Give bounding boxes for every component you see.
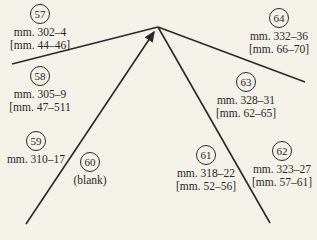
node-62: 62 mm. 323–27 [mm. 57–61] — [250, 141, 314, 189]
node-63: 63 mm. 328–31 [mm. 62–65] — [214, 72, 278, 120]
node-61: 61 mm. 318–22 [mm. 52–56] — [174, 145, 238, 193]
node-number-circle: 57 — [30, 4, 50, 24]
node-57: 57 mm. 302–4 [mm. 44–46] — [8, 4, 72, 52]
node-60: 60 (blank) — [70, 152, 110, 187]
node-59: 59 mm. 310–17 — [6, 131, 66, 166]
node-number-circle: 58 — [30, 66, 50, 86]
node-number-circle: 63 — [236, 72, 256, 92]
node-number-circle: 59 — [26, 131, 46, 151]
node-number-circle: 62 — [272, 141, 292, 161]
node-number-circle: 64 — [269, 8, 289, 28]
node-58: 58 mm. 305–9 [mm. 47–511 — [8, 66, 72, 114]
arrow-line — [26, 32, 154, 224]
node-number-circle: 60 — [80, 152, 100, 172]
node-64: 64 mm. 332–36 [mm. 66–70] — [244, 8, 314, 56]
line-descending — [158, 27, 270, 223]
node-number-circle: 61 — [196, 145, 216, 165]
